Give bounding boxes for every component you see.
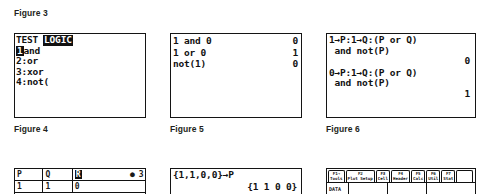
toolbar-f6-label: Util: [428, 177, 438, 182]
menu-item-not-label: not(: [27, 77, 49, 88]
data-editor-table[interactable]: P Q R ● 3 1 1 0: [15, 169, 145, 193]
toolbar-empty-slot: [456, 170, 473, 182]
menu-bar: TESTLOGIC: [16, 35, 145, 46]
toolbar-f7-label: Stat: [443, 177, 453, 182]
toolbar-f4-header[interactable]: F4 Header: [391, 170, 410, 182]
caption-figure-5: Figure 5: [170, 124, 204, 134]
figure-6-calculator-screen: 1→P:1→Q:(P or Q) and not(P) 0 0→P:1→Q:(P…: [326, 33, 476, 118]
toolbar-f5-calc[interactable]: F5 Calc: [411, 170, 425, 182]
list-assignment-expression: {1,1,0,0}→P: [171, 169, 301, 181]
data-variable-label: DATA: [327, 183, 349, 194]
toolbar-f2-label: Plot Setup: [348, 177, 373, 182]
cell-marker-icon: ●: [130, 170, 134, 179]
history-entry-2-result: 1: [292, 48, 298, 59]
caption-figure-3: Figure 3: [14, 8, 48, 18]
figure-9-data-matrix-editor-screen: F1→ Tools F2 Plot Setup F3 Cell F4 Heade…: [326, 168, 476, 194]
data-variable-row: DATA: [327, 182, 475, 194]
history-entry-3: not(1) 0: [171, 59, 301, 70]
history-entry-1-line-2: and not(P): [329, 46, 473, 57]
cell-r-1[interactable]: 0: [72, 181, 145, 193]
column-header-p[interactable]: P: [15, 169, 43, 181]
history-entry-1: 1 and 0 0: [171, 36, 301, 47]
data-row-spacer-2: [388, 183, 427, 194]
history-entry-3-result: 0: [292, 59, 298, 70]
history-entry-1-result: 0: [329, 56, 473, 67]
caption-figure-4: Figure 4: [14, 124, 48, 134]
history-group-2: 0→P:1→Q:(P or Q) and not(P) 1: [327, 67, 475, 100]
menu-bar-test-label: TEST: [16, 35, 38, 46]
toolbar-f5-label: Calc: [413, 177, 423, 182]
menu-bar-logic-selected[interactable]: LOGIC: [43, 35, 73, 46]
toolbar-f1-tools[interactable]: F1→ Tools: [328, 170, 345, 182]
toolbar-f2-plot-setup[interactable]: F2 Plot Setup: [346, 170, 375, 182]
history-entry-3-expression: not(1): [173, 59, 206, 70]
cell-p-1[interactable]: 1: [15, 181, 43, 193]
toolbar-f3-cell[interactable]: F3 Cell: [376, 170, 390, 182]
menu-item-or-label: or: [27, 56, 38, 67]
history-entry-2: 1 or 0 1: [171, 48, 301, 59]
history-entry-1-expression: 1 and 0: [173, 36, 212, 47]
toolbar-f6-util[interactable]: F6 Util: [426, 170, 440, 182]
column-header-r[interactable]: R: [75, 170, 82, 179]
list-assignment-result: {1 1 0 0}: [171, 181, 301, 193]
table-header-row: P Q R ● 3: [15, 169, 145, 181]
history-entry-2-line-2: and not(P): [329, 78, 473, 89]
figure-4-calculator-screen: TESTLOGIC 1and 2:or 3:xor 4:not(: [14, 33, 146, 118]
menu-item-not[interactable]: 4:not(: [16, 77, 145, 88]
cell-reference-value: 3: [139, 170, 143, 179]
toolbar-f4-label: Header: [393, 177, 408, 182]
figure-8-calculator-screen: {1,1,0,0}→P {1 1 0 0}: [170, 168, 302, 194]
history-group-1: 1→P:1→Q:(P or Q) and not(P) 0: [327, 34, 475, 67]
menu-item-or[interactable]: 2:or: [16, 56, 145, 67]
data-row-spacer-1: [349, 183, 388, 194]
column-header-q[interactable]: Q: [43, 169, 72, 181]
history-entry-2-expression: 1 or 0: [173, 48, 206, 59]
history-entry-1-result: 0: [292, 36, 298, 47]
figure-7-data-editor-screen: P Q R ● 3 1 1 0: [14, 168, 146, 194]
toolbar-f3-label: Cell: [378, 177, 388, 182]
cell-reference: ● 3: [130, 170, 143, 179]
figure-5-calculator-screen: 1 and 0 0 1 or 0 1 not(1) 0: [170, 33, 302, 118]
history-entry-2-result: 1: [329, 89, 473, 100]
toolbar-f7-stat[interactable]: F7 Stat: [441, 170, 455, 182]
column-header-r-cell[interactable]: R ● 3: [72, 169, 145, 181]
function-key-toolbar[interactable]: F1→ Tools F2 Plot Setup F3 Cell F4 Heade…: [327, 169, 475, 182]
caption-figure-6: Figure 6: [326, 124, 360, 134]
table-row: 1 1 0: [15, 181, 145, 193]
history-entry-1-line-1: 1→P:1→Q:(P or Q): [329, 35, 473, 46]
toolbar-f1-label: Tools: [330, 177, 343, 182]
cell-q-1[interactable]: 1: [43, 181, 72, 193]
